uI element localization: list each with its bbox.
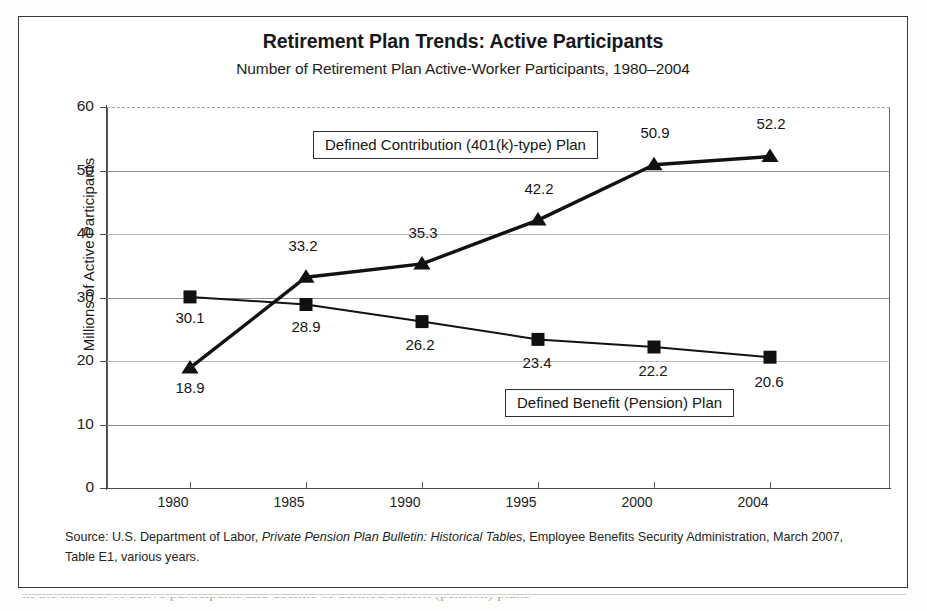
series-line-defined-benefit <box>190 297 770 357</box>
y-tick-mark-0 <box>100 488 107 489</box>
plot-area: 18.9 33.2 35.3 42.2 50.9 52.2 30.1 28.9 … <box>107 107 890 488</box>
cutoff-body-text-line: in the number of active participants and… <box>22 597 906 602</box>
data-label-db-1985: 28.9 <box>291 318 320 335</box>
y-tick-mark-30 <box>100 298 107 299</box>
y-tick-mark-10 <box>100 425 107 426</box>
y-tick-label-30: 30 <box>48 288 94 306</box>
data-label-dc-1985: 33.2 <box>288 237 317 254</box>
marker-db-1980 <box>184 290 197 303</box>
chart-subtitle: Number of Retirement Plan Active-Worker … <box>18 60 908 78</box>
marker-db-1990 <box>416 315 429 328</box>
x-tick-label-1990: 1990 <box>370 494 440 510</box>
series-plot <box>107 107 890 488</box>
marker-db-1985 <box>300 298 313 311</box>
y-tick-label-60: 60 <box>48 97 94 115</box>
source-note-prefix: Source: U.S. Department of Labor, <box>65 530 262 544</box>
legend-callout-defined-contribution: Defined Contribution (401(k)-type) Plan <box>313 131 598 159</box>
source-note: Source: U.S. Department of Labor, Privat… <box>65 528 875 567</box>
chart-title: Retirement Plan Trends: Active Participa… <box>18 30 908 53</box>
series-line-defined-contribution <box>190 157 770 368</box>
x-tick-label-2000: 2000 <box>602 494 672 510</box>
gridline-0 <box>107 488 890 489</box>
marker-db-2004 <box>764 351 777 364</box>
y-tick-label-20: 20 <box>48 351 94 369</box>
data-label-dc-1990: 35.3 <box>408 224 437 241</box>
data-label-db-1995: 23.4 <box>522 354 551 371</box>
y-tick-label-50: 50 <box>48 161 94 179</box>
data-label-dc-1995: 42.2 <box>524 180 553 197</box>
x-tick-label-1995: 1995 <box>486 494 556 510</box>
y-tick-label-0: 0 <box>48 478 94 496</box>
y-tick-mark-20 <box>100 361 107 362</box>
cutoff-body-text: in the number of active participants and… <box>22 597 906 611</box>
x-tick-label-1980: 1980 <box>138 494 208 510</box>
y-tick-label-10: 10 <box>48 415 94 433</box>
marker-db-2000 <box>648 341 661 354</box>
data-label-dc-1980: 18.9 <box>175 379 204 396</box>
data-label-dc-2004: 52.2 <box>756 115 785 132</box>
page-rule <box>22 594 906 595</box>
y-tick-label-40: 40 <box>48 224 94 242</box>
legend-callout-defined-benefit: Defined Benefit (Pension) Plan <box>505 389 734 417</box>
y-tick-mark-60 <box>100 107 107 108</box>
data-label-db-1990: 26.2 <box>405 336 434 353</box>
y-tick-mark-50 <box>100 171 107 172</box>
source-note-publication: Private Pension Plan Bulletin: Historica… <box>262 530 523 544</box>
y-axis-title: Millions of Active Participants <box>80 75 97 435</box>
data-label-dc-2000: 50.9 <box>640 124 669 141</box>
y-tick-mark-40 <box>100 234 107 235</box>
x-tick-label-2004: 2004 <box>718 494 788 510</box>
x-tick-label-1985: 1985 <box>254 494 324 510</box>
data-label-db-2004: 20.6 <box>754 373 783 390</box>
marker-db-1995 <box>532 333 545 346</box>
data-label-db-2000: 22.2 <box>638 362 667 379</box>
data-label-db-1980: 30.1 <box>175 309 204 326</box>
